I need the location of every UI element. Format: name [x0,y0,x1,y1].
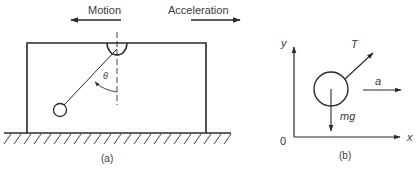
angle-arc [95,82,117,92]
ground-hatching [4,134,231,144]
caption-b: (b) [339,150,351,161]
x-axis-label: x [406,131,413,143]
accel-label: a [375,75,381,87]
y-axis-label: y [280,37,288,49]
box-outline [27,43,206,133]
motion-label: Motion [88,4,121,16]
theta-label: θ [103,71,108,81]
acceleration-label: Acceleration [168,4,229,16]
panel-a: Motion Acceleration θ [4,4,240,164]
pendulum-accelerating-box-diagram: Motion Acceleration θ [0,0,418,170]
caption-a: (a) [101,153,113,164]
pendulum-string [64,49,117,105]
weight-label: mg [340,110,356,122]
tension-label: T [351,38,359,50]
tension-arrow [345,53,373,79]
panel-b: y x 0 T mg a (b) [280,37,413,161]
pendulum-bob [54,104,67,117]
origin-label: 0 [280,135,286,147]
